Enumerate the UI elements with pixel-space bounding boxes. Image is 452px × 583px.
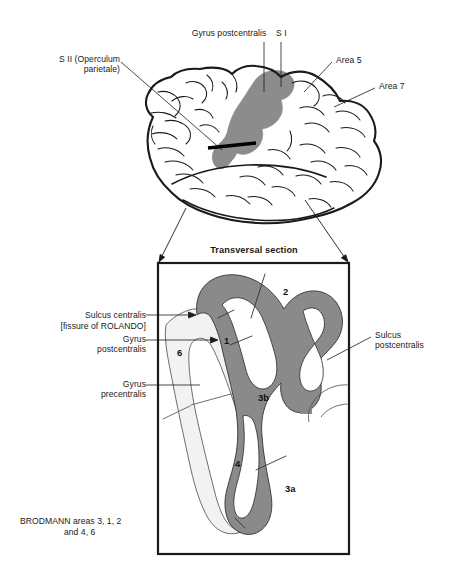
label-sulcus-centralis: Sulcus centralis — [28, 310, 146, 320]
leader-area-5 — [304, 62, 332, 92]
brodmann-caption: BRODMANN areas 3, 1, 2 and 4, 6 — [20, 516, 170, 538]
label-gyrus-postcentralis: Gyrus postcentralis — [48, 334, 146, 355]
area-number-3b: 3b — [258, 392, 269, 403]
area-number-1: 1 — [224, 335, 229, 346]
lateral-fissure — [172, 165, 326, 184]
brodmann-areas-figure: Gyrus postcentralis S I S II (Operculum … — [0, 0, 452, 583]
area-number-3a: 3a — [285, 483, 295, 494]
label-s-one: S I — [276, 28, 306, 38]
section-title: Transversal section — [179, 245, 329, 255]
ribbon-cut-edge — [300, 392, 312, 414]
brain-sulci-lines — [151, 74, 237, 197]
section-box-group — [158, 263, 349, 554]
label-sulcus-postcentralis: Sulcus postcentralis — [375, 330, 447, 351]
label-gyrus-precentralis: Gyrus precentralis — [48, 379, 146, 400]
area-number-4: 4 — [235, 458, 240, 469]
label-s-two-operculum: S II (Operculum parietale) — [22, 54, 120, 75]
label-area-5: Area 5 — [336, 55, 396, 65]
arrow-right-head — [341, 255, 348, 262]
leader-area-7 — [334, 88, 375, 107]
label-area-7: Area 7 — [379, 81, 439, 91]
label-fissure-of-rolando: [fissure of ROLANDO] — [18, 321, 146, 331]
arrow-left-head — [159, 254, 165, 262]
area-number-2: 2 — [283, 286, 288, 297]
label-gyrus-postcentralis-top: Gyrus postcentralis — [175, 28, 283, 38]
area-number-6: 6 — [177, 347, 182, 358]
lateral-brain-drawing — [121, 42, 381, 223]
